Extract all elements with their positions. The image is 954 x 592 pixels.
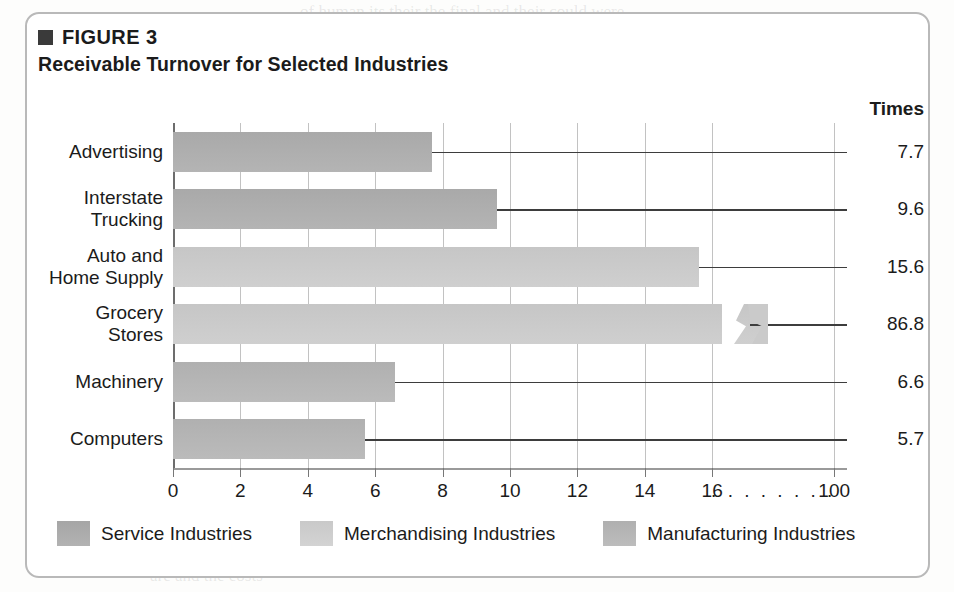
leader-line	[432, 152, 847, 154]
leader-line	[497, 209, 847, 211]
legend-swatch-merch	[300, 521, 333, 546]
x-axis-tick	[834, 468, 835, 477]
x-axis-tick	[375, 468, 376, 477]
gridline	[308, 123, 309, 468]
value-label-grocery-stores: 86.8	[858, 313, 924, 335]
category-label-interstate-trucking: Interstate Trucking	[15, 187, 163, 231]
x-axis-tick	[240, 468, 241, 477]
x-axis-tick	[712, 468, 713, 477]
leader-line	[365, 439, 847, 441]
category-label-grocery-stores: Grocery Stores	[15, 302, 163, 346]
plot-area: 0246810121416100. . . . . . . .	[173, 123, 847, 468]
gridline	[712, 123, 713, 468]
x-axis-tick-label: 4	[303, 480, 314, 502]
bar-computers[interactable]	[173, 419, 365, 459]
value-label-computers: 5.7	[858, 428, 924, 450]
leader-line	[699, 267, 847, 269]
bar-grocery-stores[interactable]	[173, 304, 766, 344]
value-column-header: Times	[858, 98, 924, 120]
value-label-machinery: 6.6	[858, 371, 924, 393]
x-axis-tick	[443, 468, 444, 477]
value-label-auto-and-home-supply: 15.6	[858, 256, 924, 278]
category-label-machinery: Machinery	[15, 371, 163, 393]
x-axis-break-dots: . . . . . . . .	[711, 480, 835, 502]
x-axis-tick-label: 14	[634, 480, 655, 502]
gridline	[834, 123, 835, 468]
gridline	[510, 123, 511, 468]
legend-swatch-manuf	[603, 521, 636, 546]
category-label-advertising: Advertising	[15, 141, 163, 163]
bar-machinery[interactable]	[173, 362, 395, 402]
x-axis-tick	[577, 468, 578, 477]
x-axis-tick-label: 12	[567, 480, 588, 502]
axis-break-zigzag-icon	[722, 302, 774, 346]
legend-item-service[interactable]: Service Industries	[57, 521, 252, 546]
category-label-auto-and-home-supply: Auto and Home Supply	[15, 245, 163, 289]
bar-advertising[interactable]	[173, 132, 432, 172]
bar-interstate-trucking[interactable]	[173, 189, 497, 229]
figure-number: FIGURE 3	[62, 26, 157, 49]
legend-swatch-service	[57, 521, 90, 546]
black-square-bullet-icon	[38, 30, 53, 45]
legend-label-merch: Merchandising Industries	[344, 523, 555, 545]
category-label-computers: Computers	[15, 428, 163, 450]
legend-item-merch[interactable]: Merchandising Industries	[300, 521, 555, 546]
x-axis-tick-label: 6	[370, 480, 381, 502]
legend-item-manuf[interactable]: Manufacturing Industries	[603, 521, 855, 546]
gridline	[240, 123, 241, 468]
gridline	[443, 123, 444, 468]
value-column: Times 7.79.615.686.86.65.7	[858, 98, 938, 470]
gridline	[375, 123, 376, 468]
x-axis-tick	[173, 468, 174, 477]
x-axis-tick	[510, 468, 511, 477]
figure-title: Receivable Turnover for Selected Industr…	[38, 53, 448, 76]
x-axis-tick-label: 2	[235, 480, 246, 502]
x-axis-tick-label: 10	[499, 480, 520, 502]
value-label-advertising: 7.7	[858, 141, 924, 163]
x-axis-tick	[308, 468, 309, 477]
value-label-interstate-trucking: 9.6	[858, 198, 924, 220]
gridline	[577, 123, 578, 468]
leader-line	[395, 382, 847, 384]
legend-label-service: Service Industries	[101, 523, 252, 545]
y-axis-line	[173, 123, 175, 468]
category-label-column: AdvertisingInterstate TruckingAuto and H…	[15, 123, 163, 468]
figure-header: FIGURE 3 Receivable Turnover for Selecte…	[38, 26, 448, 76]
x-axis-tick-label: 8	[437, 480, 448, 502]
gridline	[645, 123, 646, 468]
legend-label-manuf: Manufacturing Industries	[647, 523, 855, 545]
chart-legend: Service IndustriesMerchandising Industri…	[57, 521, 855, 546]
x-axis-tick-label: 0	[168, 480, 179, 502]
figure-number-line: FIGURE 3	[38, 26, 448, 49]
bar-auto-and-home-supply[interactable]	[173, 247, 699, 287]
x-axis-tick	[645, 468, 646, 477]
